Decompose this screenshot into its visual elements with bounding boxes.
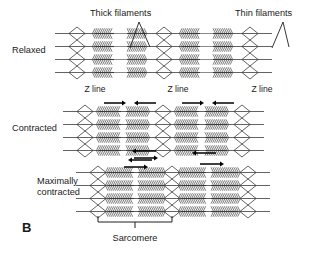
row-label-maximally: Maximally xyxy=(37,176,78,186)
thick-filaments-label: Thick filaments xyxy=(90,8,152,18)
thin-filaments-label: Thin filaments xyxy=(235,8,293,18)
panel-letter-label: B xyxy=(22,220,31,235)
sarcomere-label: Sarcomere xyxy=(113,233,158,243)
row-label-contracted: Contracted xyxy=(12,123,57,133)
z-line-label-left: Z line xyxy=(84,84,105,94)
z-line-label-middle: Z line xyxy=(167,84,188,94)
sarcomere-diagram-canvas: Thick filaments Thin filaments Relaxed C… xyxy=(0,0,330,253)
z-line-label-right: Z line xyxy=(251,84,272,94)
row-label-contracted-second-line: contracted xyxy=(37,187,80,197)
row-label-relaxed: Relaxed xyxy=(12,45,46,55)
sarcomere-figure: Thick filaments Thin filaments Relaxed C… xyxy=(0,0,330,253)
